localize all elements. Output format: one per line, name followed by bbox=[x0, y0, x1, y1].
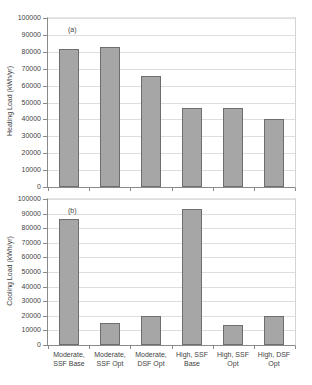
panel-label-b: (b) bbox=[68, 207, 77, 214]
x-tick-mark bbox=[213, 346, 214, 349]
bar bbox=[223, 108, 243, 187]
y-gridline bbox=[48, 136, 295, 137]
y-tick-mark bbox=[43, 330, 47, 331]
y-tick-mark bbox=[43, 136, 47, 137]
y-tick-label: 70000 bbox=[1, 239, 41, 247]
y-gridline bbox=[48, 287, 295, 288]
x-tick-mark bbox=[48, 188, 49, 191]
y-gridline bbox=[48, 86, 295, 87]
y-tick-label: 30000 bbox=[1, 297, 41, 305]
y-gridline bbox=[48, 153, 295, 154]
bar bbox=[59, 219, 79, 345]
y-tick-label: 80000 bbox=[1, 224, 41, 232]
category-label: Moderate, SSF Base bbox=[47, 351, 91, 368]
y-tick-label: 50000 bbox=[1, 268, 41, 276]
y-tick-mark bbox=[43, 103, 47, 104]
y-tick-mark bbox=[43, 199, 47, 200]
bar bbox=[223, 325, 243, 345]
y-gridline bbox=[48, 272, 295, 273]
y-tick-label: 60000 bbox=[1, 82, 41, 90]
y-tick-mark bbox=[43, 316, 47, 317]
y-gridline bbox=[48, 330, 295, 331]
bar bbox=[100, 47, 120, 187]
category-label: High, SSF Opt bbox=[211, 351, 255, 368]
x-tick-mark bbox=[213, 188, 214, 191]
y-tick-mark bbox=[43, 35, 47, 36]
y-tick-label: 90000 bbox=[1, 210, 41, 218]
x-tick-mark bbox=[89, 346, 90, 349]
y-tick-mark bbox=[43, 170, 47, 171]
y-tick-label: 90000 bbox=[1, 31, 41, 39]
y-gridline bbox=[48, 243, 295, 244]
y-tick-label: 0 bbox=[1, 183, 41, 191]
y-tick-mark bbox=[43, 287, 47, 288]
y-tick-mark bbox=[43, 345, 47, 346]
y-tick-label: 20000 bbox=[1, 312, 41, 320]
category-label: Moderate, DSF Opt bbox=[129, 351, 173, 368]
heating-chart-plot-area: (a) 010000200003000040000500006000070000… bbox=[47, 17, 296, 188]
y-gridline bbox=[48, 69, 295, 70]
y-tick-mark bbox=[43, 86, 47, 87]
y-gridline bbox=[48, 228, 295, 229]
dual-bar-chart-figure: (a) 010000200003000040000500006000070000… bbox=[0, 0, 312, 385]
y-gridline bbox=[48, 257, 295, 258]
bar bbox=[182, 108, 202, 187]
x-tick-mark bbox=[48, 346, 49, 349]
y-gridline bbox=[48, 199, 295, 200]
y-tick-label: 10000 bbox=[1, 326, 41, 334]
y-gridline bbox=[48, 170, 295, 171]
y-tick-label: 0 bbox=[1, 341, 41, 349]
y-gridline bbox=[48, 301, 295, 302]
y-tick-label: 100000 bbox=[1, 14, 41, 22]
y-tick-label: 40000 bbox=[1, 283, 41, 291]
x-tick-mark bbox=[172, 346, 173, 349]
panel-label-a: (a) bbox=[68, 26, 77, 33]
bar bbox=[264, 119, 284, 187]
category-label: High, SSF Base bbox=[170, 351, 214, 368]
x-tick-mark bbox=[89, 188, 90, 191]
y-tick-mark bbox=[43, 187, 47, 188]
y-tick-label: 30000 bbox=[1, 132, 41, 140]
bar bbox=[100, 323, 120, 345]
y-tick-mark bbox=[43, 228, 47, 229]
cooling-chart-plot-area: (b) 010000200003000040000500006000070000… bbox=[47, 198, 296, 346]
category-label: Moderate, SSF Opt bbox=[88, 351, 132, 368]
y-tick-mark bbox=[43, 153, 47, 154]
y-gridline bbox=[48, 316, 295, 317]
x-tick-mark bbox=[254, 346, 255, 349]
y-gridline bbox=[48, 35, 295, 36]
y-tick-label: 60000 bbox=[1, 253, 41, 261]
y-gridline bbox=[48, 18, 295, 19]
y-gridline bbox=[48, 103, 295, 104]
y-tick-label: 20000 bbox=[1, 149, 41, 157]
x-tick-mark bbox=[130, 346, 131, 349]
x-tick-mark bbox=[130, 188, 131, 191]
y-tick-mark bbox=[43, 243, 47, 244]
x-tick-mark bbox=[295, 346, 296, 349]
y-tick-mark bbox=[43, 257, 47, 258]
x-tick-mark bbox=[295, 188, 296, 191]
bar bbox=[59, 49, 79, 187]
bar bbox=[264, 316, 284, 345]
y-tick-mark bbox=[43, 69, 47, 70]
y-tick-mark bbox=[43, 272, 47, 273]
bar bbox=[141, 316, 161, 345]
y-tick-mark bbox=[43, 52, 47, 53]
y-tick-label: 70000 bbox=[1, 65, 41, 73]
bar bbox=[141, 76, 161, 187]
y-tick-label: 10000 bbox=[1, 166, 41, 174]
y-tick-label: 40000 bbox=[1, 115, 41, 123]
y-tick-mark bbox=[43, 119, 47, 120]
y-tick-mark bbox=[43, 18, 47, 19]
y-tick-label: 50000 bbox=[1, 99, 41, 107]
y-tick-mark bbox=[43, 214, 47, 215]
y-gridline bbox=[48, 214, 295, 215]
bar bbox=[182, 209, 202, 345]
y-gridline bbox=[48, 52, 295, 53]
y-gridline bbox=[48, 119, 295, 120]
y-tick-label: 80000 bbox=[1, 48, 41, 56]
y-tick-mark bbox=[43, 301, 47, 302]
x-tick-mark bbox=[172, 188, 173, 191]
category-label: High, DSF Opt bbox=[252, 351, 296, 368]
x-tick-mark bbox=[254, 188, 255, 191]
